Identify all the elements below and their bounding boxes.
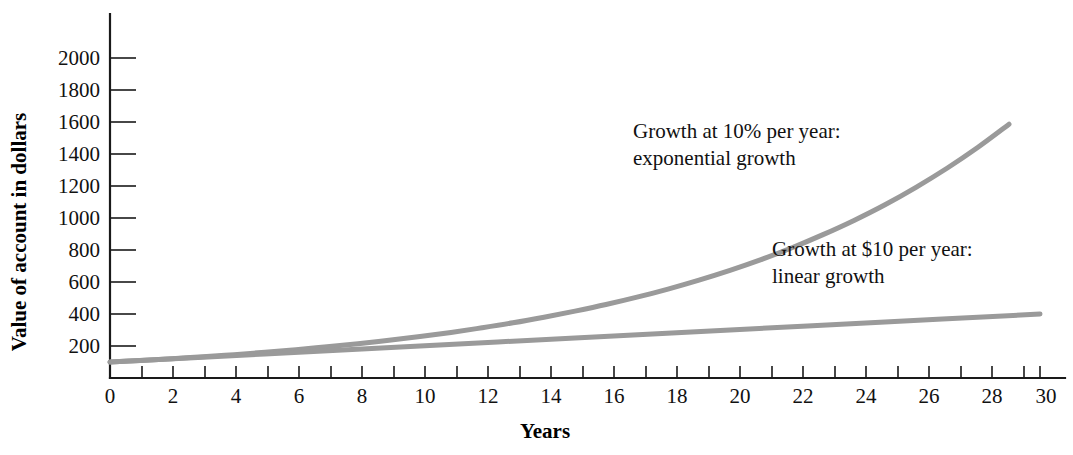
y-tick-label-1400: 1400	[58, 142, 100, 166]
y-tick-label-2000: 2000	[58, 46, 100, 70]
x-axis-ticks	[110, 366, 1040, 378]
x-axis-tick-labels: 0 2 4 6 8 10 12 14 16 18 20 22 24 26 28 …	[105, 384, 1057, 408]
x-tick-label-12: 12	[478, 384, 499, 408]
x-tick-label-28: 28	[982, 384, 1003, 408]
y-tick-label-400: 400	[69, 302, 101, 326]
growth-comparison-chart: Value of account in dollars 200 400 600 …	[0, 0, 1073, 455]
y-tick-label-600: 600	[69, 270, 101, 294]
y-axis-title: Value of account in dollars	[7, 113, 31, 351]
annotation-exponential-line1: Growth at 10% per year:	[633, 119, 841, 143]
y-axis-tick-labels: 200 400 600 800 1000 1200 1400 1600 1800…	[58, 46, 100, 358]
x-tick-label-0: 0	[105, 384, 116, 408]
annotation-exponential: Growth at 10% per year: exponential grow…	[633, 119, 841, 170]
annotation-linear-line2: linear growth	[772, 264, 885, 288]
x-tick-label-16: 16	[604, 384, 625, 408]
annotation-linear: Growth at $10 per year: linear growth	[772, 237, 973, 288]
x-tick-label-18: 18	[667, 384, 688, 408]
y-tick-label-200: 200	[69, 334, 101, 358]
x-tick-label-14: 14	[541, 384, 563, 408]
x-tick-label-2: 2	[168, 384, 179, 408]
x-tick-label-26: 26	[919, 384, 940, 408]
x-tick-label-22: 22	[793, 384, 814, 408]
y-tick-label-1800: 1800	[58, 78, 100, 102]
chart-figure: Value of account in dollars 200 400 600 …	[0, 0, 1073, 455]
y-tick-label-1600: 1600	[58, 110, 100, 134]
series-line-linear	[110, 314, 1040, 362]
y-tick-label-800: 800	[69, 238, 101, 262]
annotation-linear-line1: Growth at $10 per year:	[772, 237, 973, 261]
x-tick-label-4: 4	[231, 384, 242, 408]
x-tick-label-24: 24	[856, 384, 878, 408]
annotation-exponential-line2: exponential growth	[633, 146, 796, 170]
y-tick-label-1000: 1000	[58, 206, 100, 230]
x-tick-label-6: 6	[294, 384, 305, 408]
y-axis-ticks	[110, 58, 136, 346]
x-axis-title: Years	[520, 419, 570, 443]
x-tick-label-20: 20	[730, 384, 751, 408]
x-tick-label-30: 30	[1036, 384, 1057, 408]
y-tick-label-1200: 1200	[58, 174, 100, 198]
x-tick-label-8: 8	[357, 384, 368, 408]
x-tick-label-10: 10	[415, 384, 436, 408]
